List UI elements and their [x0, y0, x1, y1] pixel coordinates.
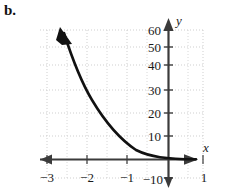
y-axis: [163, 18, 173, 188]
x-tick-label-minus-2: −2: [80, 170, 94, 185]
x-tick-label-1: 1: [201, 170, 208, 185]
y-axis-arrow-up-icon: [163, 18, 173, 31]
x-axis-label: x: [202, 140, 209, 155]
grid-lines: [40, 30, 203, 178]
y-tick-label-20: 20: [148, 106, 161, 121]
y-tick-label-30: 30: [148, 83, 161, 98]
y-tick-label-10: 10: [148, 129, 161, 144]
y-tick-label-50: 50: [148, 40, 161, 55]
y-tick-label-60: 60: [148, 23, 161, 38]
graph-plot: 60 50 40 30 20 10 −10 −3 −2 −1 1 y x: [0, 0, 234, 190]
x-axis-arrow-left-icon: [40, 155, 52, 165]
x-tick-label-minus-1: −1: [120, 170, 134, 185]
y-tick-label-minus-10: −10: [143, 172, 163, 187]
figure-container: b.: [0, 0, 234, 190]
x-tick-label-minus-3: −3: [40, 170, 54, 185]
y-axis-label: y: [174, 13, 182, 28]
y-tick-label-40: 40: [148, 58, 161, 73]
curve-path: [64, 33, 196, 159]
